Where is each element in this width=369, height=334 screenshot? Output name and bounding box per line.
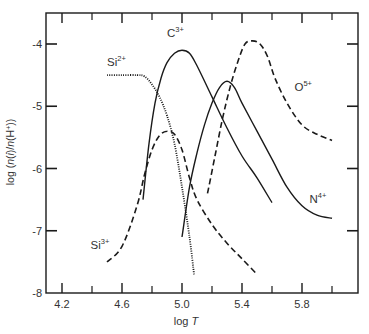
y-tick-label: -6 [32, 163, 42, 175]
x-tick-label: 5.8 [294, 298, 309, 310]
y-tick-label: -7 [32, 225, 42, 237]
axis-tick-labels: 4.24.65.05.45.8-4-5-6-7-8 [32, 38, 309, 310]
ion-label: Si3+ [91, 237, 110, 251]
series-c3-plus [143, 50, 272, 203]
x-tick-label: 4.2 [54, 298, 69, 310]
series-si3-plus [107, 131, 257, 274]
ion-label: Si2+ [107, 54, 126, 68]
y-tick-label: -5 [32, 100, 42, 112]
series-si2-plus [107, 75, 194, 274]
data-series [107, 41, 332, 274]
ion-fraction-chart: 4.24.65.05.45.8-4-5-6-7-8 Si2+Si3+C3+N4+… [0, 0, 369, 334]
ion-label: O5+ [295, 79, 313, 93]
x-tick-label: 5.0 [174, 298, 189, 310]
y-axis-label: log (n(i)/n(H+)) [4, 119, 16, 186]
y-tick-label: -8 [32, 287, 42, 299]
x-tick-label: 4.6 [114, 298, 129, 310]
ion-labels: Si2+Si3+C3+N4+O5+ [91, 25, 327, 252]
x-axis-label: log T [174, 315, 200, 327]
series-o5-plus [208, 41, 333, 194]
x-tick-label: 5.4 [234, 298, 249, 310]
y-tick-label: -4 [32, 38, 42, 50]
ion-label: C3+ [167, 25, 184, 39]
ion-label: N4+ [310, 191, 327, 205]
